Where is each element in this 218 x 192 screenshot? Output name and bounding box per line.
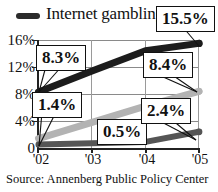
callout-1-4-percent: 1.4% — [32, 92, 82, 118]
source-note: Source: Annenberg Public Policy Center — [6, 172, 218, 186]
callout-8-3-percent: 8.3% — [36, 45, 86, 71]
callout-0-5-percent: 0.5% — [97, 119, 147, 145]
chart-container: Internet gambling 16% 12% 8% 4% 0 '02 '0… — [0, 0, 218, 192]
callout-15-5-percent: 15.5% — [156, 6, 215, 32]
callout-8-4-percent: 8.4% — [143, 52, 193, 78]
callout-2-4-percent: 2.4% — [141, 98, 191, 124]
endpoint-marker-dark-gray — [196, 128, 203, 135]
